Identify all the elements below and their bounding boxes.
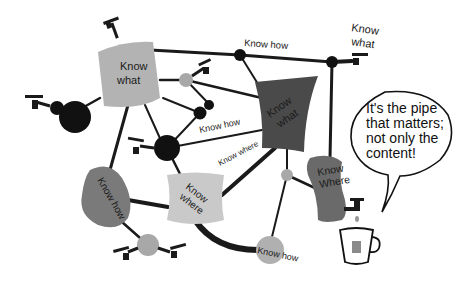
pipe-label: Know where — [217, 139, 261, 168]
tap-label: Know — [351, 21, 380, 37]
container-know-what-center: Know what — [255, 76, 318, 152]
speech-text: that matters; — [366, 115, 444, 131]
pipe-label: Know how — [244, 37, 289, 51]
pipe-label: Know how — [198, 116, 241, 135]
junction-node — [179, 73, 193, 87]
container-know-what-top: Know what — [98, 42, 160, 107]
junction-node — [326, 56, 338, 68]
junction-node — [204, 100, 214, 110]
container-know-where-center: Know where — [167, 173, 224, 225]
junction-node — [50, 101, 64, 115]
tap-icon — [103, 17, 125, 41]
tap-icon — [158, 243, 186, 258]
tap-icon — [352, 53, 368, 65]
speech-text: content! — [366, 145, 416, 161]
water-drop-icon — [355, 216, 359, 222]
container-label: what — [116, 74, 140, 86]
junction-node — [137, 234, 159, 256]
speech-bubble: It's the pipe that matters; not only the… — [351, 91, 452, 212]
diagram-canvas: Know what Know what Know how Know where … — [0, 0, 475, 281]
cup-icon — [340, 228, 380, 264]
knowledge-network-diagram: Know what Know what Know how Know where … — [0, 0, 475, 281]
container-know-where-right: Know Where — [307, 156, 351, 222]
speech-text: not only the — [366, 130, 439, 146]
junction-node-large — [154, 135, 180, 161]
junction-node — [281, 169, 293, 181]
tap-icon — [113, 246, 138, 260]
container-know-how-left: Know how — [81, 166, 130, 227]
junction-node-large — [59, 101, 91, 133]
tap-icon — [344, 198, 364, 211]
tap-icon — [128, 137, 154, 154]
speech-text: It's the pipe — [366, 100, 437, 116]
container-label: Know — [120, 60, 148, 72]
cup-logo — [352, 241, 361, 253]
tap-label: what — [350, 35, 376, 50]
tap-icon — [192, 58, 211, 76]
junction-node — [194, 107, 207, 120]
tap-icon — [25, 95, 50, 109]
junction-node — [234, 49, 246, 61]
